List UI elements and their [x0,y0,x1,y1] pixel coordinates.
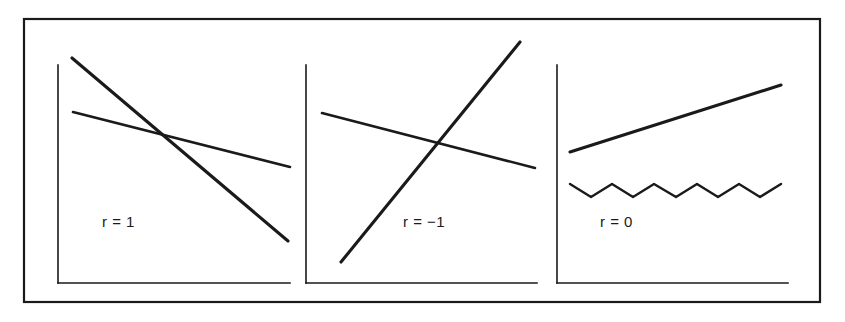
figure-canvas: r = 1r = −1r = 0 [0,0,845,322]
panel-r-0-label: r = 0 [600,213,633,230]
panel-r-1-label: r = 1 [102,213,135,230]
panel-r-minus-1-label: r = −1 [403,213,445,230]
correlation-figure: r = 1r = −1r = 0 [0,0,845,322]
